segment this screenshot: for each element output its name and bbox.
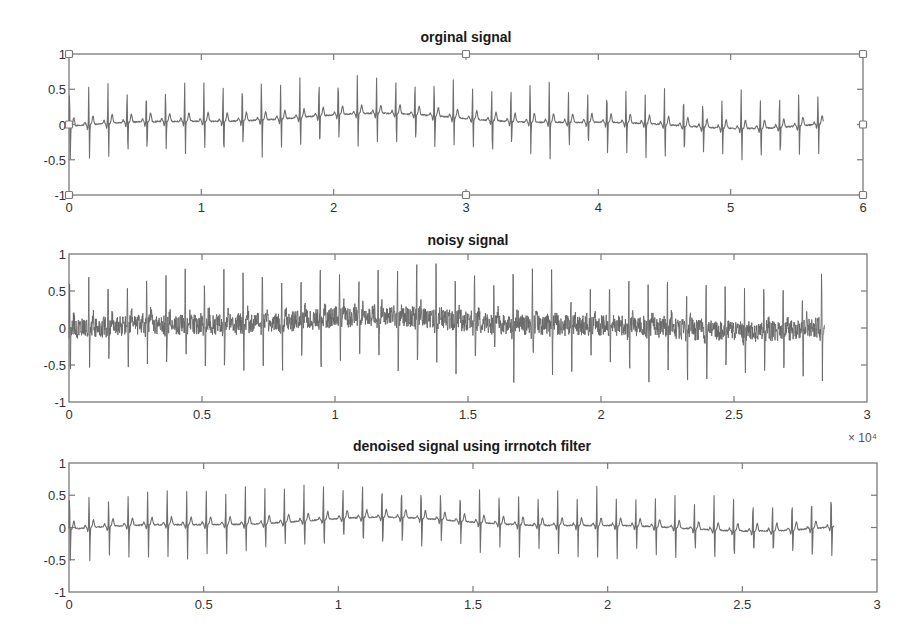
- y-tick-label: 0.5: [48, 488, 66, 503]
- resize-handle[interactable]: [66, 51, 73, 58]
- y-tick-label: -0.5: [44, 153, 66, 168]
- x-tick-label: 2.5: [725, 407, 743, 422]
- subplot-title: noisy signal: [428, 232, 509, 248]
- resize-handle[interactable]: [463, 51, 470, 58]
- y-tick-label: 0: [59, 321, 66, 336]
- x-tick-label: 3: [863, 407, 870, 422]
- subplot-title: denoised signal using irrnotch filter: [353, 438, 592, 454]
- y-tick-labels: -1-0.500.51: [44, 456, 66, 600]
- x-tick-label: 6: [859, 200, 866, 215]
- y-tick-label: -0.5: [44, 553, 66, 568]
- y-tick-label: -1: [54, 395, 66, 410]
- y-tick-labels: -1-0.500.51: [44, 47, 66, 203]
- subplot-title: orginal signal: [420, 29, 511, 45]
- x-tick-label: 2: [597, 407, 604, 422]
- x-tick-label: 0: [65, 597, 72, 612]
- x-tick-label: 0: [65, 200, 72, 215]
- x-tick-label: 5: [727, 200, 734, 215]
- resize-handle[interactable]: [860, 51, 867, 58]
- y-tick-labels: -1-0.500.51: [44, 247, 66, 410]
- x-tick-label: 0.5: [195, 597, 213, 612]
- y-tick-label: -0.5: [44, 358, 66, 373]
- y-tick-label: 0: [59, 521, 66, 536]
- x-axis-multiplier: × 10⁴: [848, 431, 877, 445]
- resize-handle[interactable]: [66, 192, 73, 199]
- y-tick-label: 0.5: [48, 284, 66, 299]
- y-tick-label: 1: [59, 456, 66, 471]
- subplot-noisy-signal[interactable]: noisy signal 00.511.522.53 -1-0.500.51 ×…: [44, 232, 877, 445]
- figure: orginal signal 0123456 -1-0.500.51 noisy…: [0, 0, 916, 641]
- x-tick-label: 1.5: [464, 597, 482, 612]
- y-tick-label: -1: [54, 585, 66, 600]
- subplot-denoised-signal[interactable]: denoised signal using irrnotch filter 00…: [44, 438, 881, 612]
- y-tick-label: 0.5: [48, 82, 66, 97]
- resize-handle[interactable]: [66, 121, 73, 128]
- axes-box[interactable]: [69, 54, 863, 195]
- x-tick-labels: 00.511.522.53: [65, 597, 880, 612]
- x-tick-label: 2: [604, 597, 611, 612]
- x-tick-labels: 00.511.522.53: [65, 407, 870, 422]
- y-tick-label: -1: [54, 188, 66, 203]
- x-tick-label: 1: [335, 597, 342, 612]
- x-tick-label: 1: [331, 407, 338, 422]
- resize-handle[interactable]: [860, 192, 867, 199]
- x-tick-label: 4: [595, 200, 602, 215]
- x-tick-label: 2.5: [733, 597, 751, 612]
- x-tick-label: 0.5: [193, 407, 211, 422]
- subplot-original-signal[interactable]: orginal signal 0123456 -1-0.500.51: [44, 29, 867, 215]
- resize-handle[interactable]: [860, 121, 867, 128]
- y-tick-label: 1: [59, 247, 66, 262]
- x-tick-labels: 0123456: [65, 200, 866, 215]
- x-tick-label: 0: [65, 407, 72, 422]
- x-tick-label: 3: [462, 200, 469, 215]
- x-tick-label: 1.5: [459, 407, 477, 422]
- x-tick-label: 3: [873, 597, 880, 612]
- resize-handle[interactable]: [463, 192, 470, 199]
- x-tick-label: 2: [330, 200, 337, 215]
- x-tick-label: 1: [198, 200, 205, 215]
